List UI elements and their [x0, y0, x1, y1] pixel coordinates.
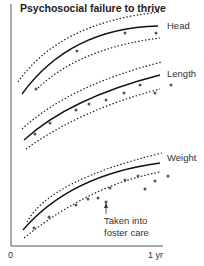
head-series: [18, 12, 160, 94]
growth-chart-plot: [0, 0, 204, 266]
x-tick-end: 1 yr: [148, 250, 163, 260]
annotation-line-1: Taken into: [104, 215, 149, 227]
head-label: Head: [167, 20, 190, 31]
length-series: [22, 62, 173, 149]
foster-care-arrow-icon: [104, 203, 108, 214]
annotation-line-2: foster care: [104, 227, 149, 239]
foster-care-annotation: Taken into foster care: [104, 215, 149, 239]
weight-label: Weight: [167, 152, 196, 163]
x-tick-start: 0: [8, 250, 13, 260]
length-label: Length: [167, 68, 196, 79]
